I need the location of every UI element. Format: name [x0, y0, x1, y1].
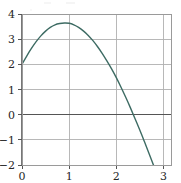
x-tick-marks: [22, 165, 163, 169]
y-tick-label-neg2: −2: [0, 159, 15, 172]
y-tick-label-3: 3: [8, 33, 15, 46]
x-tick-label-2: 2: [113, 170, 120, 183]
y-tick-marks: [18, 14, 22, 165]
y-tick-label-2: 2: [8, 58, 15, 71]
y-tick-label-0: 0: [8, 109, 15, 122]
y-tick-label-neg1: −1: [0, 134, 15, 147]
y-tick-label-1: 1: [8, 84, 15, 97]
x-tick-label-0: 0: [19, 170, 26, 183]
plot-canvas: 4 3 2 1 0 −1 −2 0 1 2 3: [0, 0, 181, 183]
x-tick-label-1: 1: [66, 170, 73, 183]
y-tick-label-4: 4: [8, 8, 15, 21]
chart-figure: 4 3 2 1 0 −1 −2 0 1 2 3: [0, 0, 181, 183]
x-tick-label-3: 3: [160, 170, 167, 183]
scan-artifact: [30, 2, 75, 11]
